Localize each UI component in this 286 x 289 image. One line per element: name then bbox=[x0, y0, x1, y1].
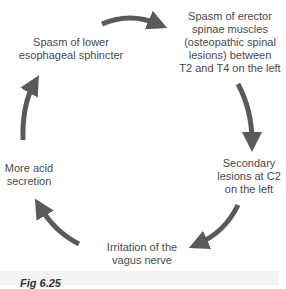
arrow-n1-to-n2 bbox=[238, 84, 252, 142]
node-line: lesions) between bbox=[174, 49, 286, 62]
arrow-n5-to-n1 bbox=[102, 18, 158, 24]
arrow-n2-to-n3 bbox=[198, 205, 238, 244]
node-line: More acid bbox=[0, 162, 58, 175]
node-more-acid-secretion: More acid secretion bbox=[0, 162, 58, 188]
node-secondary-lesions-c2: Secondary lesions at C2 on the left bbox=[214, 157, 284, 196]
node-line: spinae muscles bbox=[174, 23, 286, 36]
figure-caption: Fig 6.25 bbox=[20, 277, 61, 289]
node-line: secretion bbox=[0, 175, 58, 188]
node-line: Irritation of the bbox=[100, 241, 184, 254]
node-line: Secondary bbox=[214, 157, 284, 170]
node-line: esophageal sphincter bbox=[14, 49, 128, 62]
node-erector-spinae-spasm: Spasm of erector spinae muscles (osteopa… bbox=[174, 10, 286, 75]
node-les-spasm: Spasm of lower esophageal sphincter bbox=[14, 36, 128, 62]
arrow-n4-to-n5 bbox=[23, 84, 34, 140]
arrow-n3-to-n4 bbox=[40, 207, 79, 244]
node-line: Spasm of lower bbox=[14, 36, 128, 49]
node-line: lesions at C2 bbox=[214, 170, 284, 183]
node-line: on the left bbox=[214, 183, 284, 196]
node-line: vagus nerve bbox=[100, 254, 184, 267]
node-line: Spasm of erector bbox=[174, 10, 286, 23]
node-line: (osteopathic spinal bbox=[174, 36, 286, 49]
node-line: T2 and T4 on the left bbox=[174, 62, 286, 75]
node-vagus-irritation: Irritation of the vagus nerve bbox=[100, 241, 184, 267]
